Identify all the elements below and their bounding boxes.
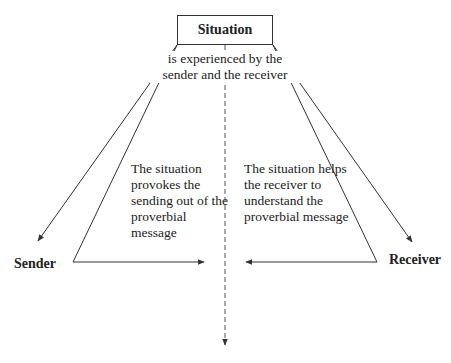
center-caption: is experienced by the sender and the rec… xyxy=(150,51,300,83)
receiver-node: Receiver xyxy=(389,252,441,268)
situation-label: Situation xyxy=(198,22,252,38)
sender-node: Sender xyxy=(14,256,56,272)
right-caption: The situation helps the receiver to unde… xyxy=(244,161,354,225)
situation-node: Situation xyxy=(177,15,273,45)
left-caption: The situation provokes the sending out o… xyxy=(131,161,231,241)
